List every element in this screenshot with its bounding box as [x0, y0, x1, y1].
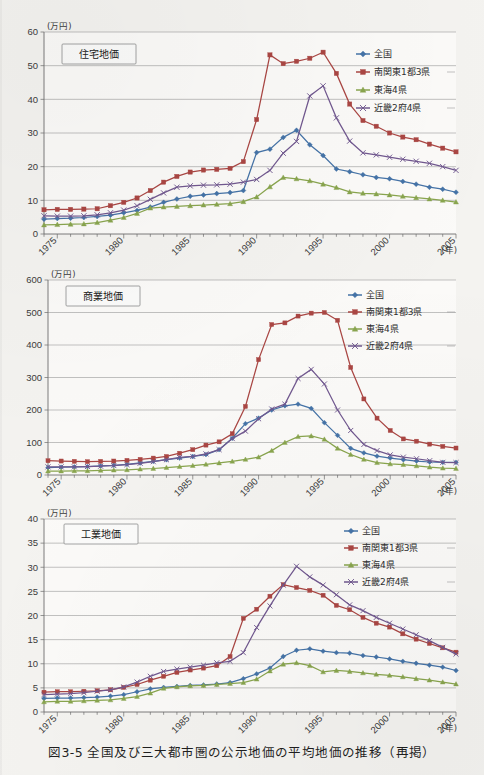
data-point-marker: [308, 56, 312, 60]
data-point-marker: [204, 443, 208, 447]
data-point-marker: [162, 674, 166, 678]
y-tick-label: 0: [37, 469, 42, 480]
data-point-marker: [55, 207, 59, 211]
legend-label: 東海4県: [366, 323, 399, 334]
x-tick-label: 2000: [369, 476, 392, 499]
y-tick-label: 25: [27, 586, 38, 597]
x-tick-label: 1990: [235, 235, 258, 258]
data-point-marker: [387, 131, 391, 135]
x-axis-unit-label: (年): [441, 486, 457, 496]
data-point-marker: [135, 196, 139, 200]
data-point-marker: [322, 310, 326, 314]
x-tick-label: 1975: [36, 713, 59, 736]
y-axis-unit-label: (万円): [47, 508, 72, 518]
y-axis-unit-label: (万円): [47, 21, 72, 31]
y-tick-label: 400: [26, 339, 42, 350]
data-point-marker: [255, 117, 259, 121]
data-point-marker: [95, 207, 99, 211]
panel-title-label: 工業地価: [81, 528, 121, 540]
y-tick-label: 30: [27, 127, 38, 138]
data-point-marker: [428, 442, 432, 446]
y-tick-label: 0: [33, 228, 38, 239]
x-tick-label: 1995: [302, 713, 325, 736]
legend-label: 全国: [362, 525, 380, 536]
y-tick-label: 100: [26, 437, 42, 448]
data-point-marker: [42, 208, 46, 212]
data-point-marker: [243, 404, 247, 408]
data-point-marker: [217, 440, 221, 444]
data-point-marker: [388, 625, 392, 629]
data-point-marker: [108, 204, 112, 208]
data-point-marker: [99, 459, 103, 463]
y-tick-label: 200: [26, 404, 42, 415]
data-point-marker: [72, 459, 76, 463]
chart-industrial-land-price: 0510152025303540(万円)19751980198519901995…: [0, 505, 484, 740]
y-tick-label: 30: [27, 562, 38, 573]
data-point-marker: [230, 432, 234, 436]
chart-commercial-land-price: 0100200300400500600(万円)19751980198519901…: [0, 262, 484, 507]
data-point-marker: [361, 118, 365, 122]
x-tick-label: 1985: [169, 713, 192, 736]
x-tick-label: 1990: [237, 476, 260, 499]
data-point-marker: [441, 444, 445, 448]
data-point-marker: [161, 180, 165, 184]
y-tick-label: 60: [27, 26, 38, 37]
y-tick-label: 50: [27, 60, 38, 71]
data-point-marker: [361, 70, 366, 75]
data-point-marker: [215, 167, 219, 171]
data-point-marker: [401, 632, 405, 636]
data-point-marker: [148, 188, 152, 192]
data-point-marker: [388, 428, 392, 432]
data-point-marker: [228, 654, 232, 658]
x-tick-label: 1995: [302, 235, 325, 258]
data-point-marker: [122, 200, 126, 204]
data-point-marker: [362, 397, 366, 401]
y-tick-label: 0: [33, 706, 38, 717]
figure-caption: 図3-5 全国及び三大都市圏の公示地価の平均地価の推移（再掲）: [0, 742, 484, 761]
data-point-marker: [321, 593, 325, 597]
x-tick-label: 1985: [171, 476, 194, 499]
data-point-marker: [309, 311, 313, 315]
data-point-marker: [191, 448, 195, 452]
panel-title-label: 商業地価: [83, 290, 123, 302]
data-point-marker: [441, 146, 445, 150]
x-tick-label: 1980: [102, 713, 125, 736]
data-point-marker: [349, 546, 354, 551]
x-tick-label: 2000: [368, 713, 391, 736]
data-point-marker: [414, 637, 418, 641]
x-tick-label: 1980: [102, 235, 125, 258]
data-point-marker: [294, 59, 298, 63]
data-point-marker: [296, 314, 300, 318]
data-point-marker: [125, 458, 129, 462]
y-tick-label: 300: [26, 372, 42, 383]
data-point-marker: [348, 608, 352, 612]
y-tick-label: 20: [27, 161, 38, 172]
x-axis-unit-label: (年): [441, 723, 457, 733]
data-point-marker: [257, 358, 261, 362]
chart-residential-land-price: 0102030405060(万円)19751980198519901995200…: [0, 6, 484, 262]
data-point-marker: [68, 207, 72, 211]
data-point-marker: [148, 678, 152, 682]
data-point-marker: [308, 588, 312, 592]
data-point-marker: [454, 150, 458, 154]
legend-label: 全国: [366, 289, 384, 300]
y-tick-label: 5: [33, 682, 38, 693]
figure-page: 0102030405060(万円)19751980198519901995200…: [0, 0, 484, 775]
data-point-marker: [85, 460, 89, 464]
y-tick-label: 40: [27, 94, 38, 105]
data-point-marker: [228, 166, 232, 170]
data-point-marker: [349, 365, 353, 369]
data-point-marker: [427, 142, 431, 146]
data-point-marker: [241, 616, 245, 620]
data-point-marker: [281, 62, 285, 66]
legend-label: 南関東1都3県: [366, 306, 422, 317]
x-tick-label: 1985: [169, 235, 192, 258]
chart-canvas: 0100200300400500600(万円)19751980198519901…: [0, 262, 484, 507]
data-point-marker: [283, 321, 287, 325]
data-point-marker: [321, 50, 325, 54]
data-point-marker: [175, 174, 179, 178]
x-tick-label: 1980: [106, 476, 129, 499]
x-tick-label: 1990: [235, 713, 258, 736]
data-point-marker: [188, 170, 192, 174]
chart-canvas: 0510152025303540(万円)19751980198519901995…: [0, 505, 484, 740]
